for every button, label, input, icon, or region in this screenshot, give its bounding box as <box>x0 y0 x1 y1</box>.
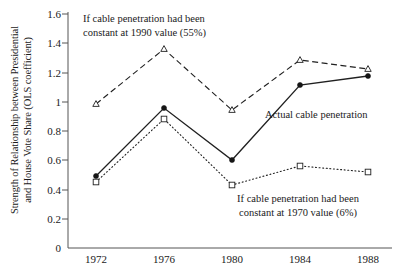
series-markers-open-square <box>93 116 371 188</box>
plot-area <box>0 0 399 277</box>
chart-container: Strength of Relationship between Preside… <box>0 0 399 277</box>
y-axis-ticks <box>62 14 68 219</box>
annotation-actual-cable: Actual cable penetration <box>265 108 368 122</box>
series-markers-open-triangle <box>93 46 371 113</box>
series-cable-1970 <box>93 116 371 188</box>
series-cable-1990 <box>93 46 371 113</box>
series-line-dotted <box>96 119 368 185</box>
series-actual-cable <box>94 74 371 179</box>
series-markers-filled-circle <box>94 74 371 179</box>
annotation-cable-1970: If cable penetration had been constant a… <box>218 192 378 219</box>
series-line-dashed <box>96 49 368 110</box>
annotation-cable-1990: If cable penetration had been constant a… <box>83 12 206 39</box>
